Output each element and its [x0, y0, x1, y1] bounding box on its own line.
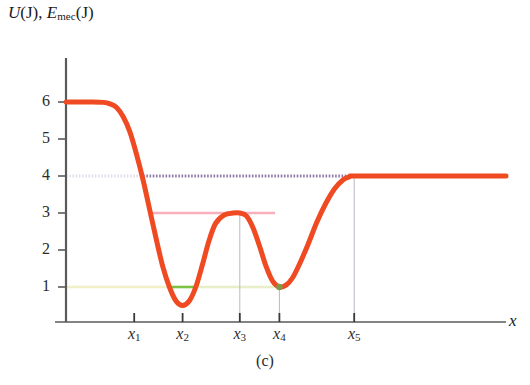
y-tick-label-2: 2: [30, 241, 50, 257]
equilibrium-dot-x4: [276, 284, 282, 290]
axis-lines: [55, 58, 506, 322]
x-tick-label-x3: x3: [223, 326, 257, 343]
y-tick-label-6: 6: [30, 93, 50, 109]
x-tick-label-subscript: 5: [355, 331, 361, 343]
y-tick-label-4: 4: [30, 167, 50, 183]
x-tick-label-subscript: 3: [241, 331, 247, 343]
marker-layer: [276, 284, 282, 290]
x-tick-label-subscript: 1: [135, 331, 141, 343]
x-tick-label-x2: x2: [166, 326, 200, 343]
x-tick-label-base: x: [128, 325, 135, 342]
x-tick-label-base: x: [348, 325, 355, 342]
x-tick-label-subscript: 2: [183, 331, 189, 343]
x-tick-label-base: x: [233, 325, 240, 342]
y-tick-label-3: 3: [30, 204, 50, 220]
panel-caption: (c): [0, 352, 530, 370]
x-axis-ticks: [134, 313, 354, 322]
y-tick-label-1: 1: [30, 278, 50, 294]
x-tick-label-subscript: 4: [280, 331, 286, 343]
x-tick-label-x1: x1: [117, 326, 151, 343]
x-tick-label-x5: x5: [337, 326, 371, 343]
potential-energy-curve-0: [66, 102, 506, 306]
potential-curve-layer: [66, 102, 506, 306]
x-tick-label-x4: x4: [262, 326, 296, 343]
y-tick-label-5: 5: [30, 130, 50, 146]
potential-energy-figure: U(J), Emec(J) x 123456 x1x2x3x4x5 (c): [0, 0, 530, 385]
guide-drop-lines: [240, 176, 354, 322]
y-axis-ticks: [58, 102, 66, 287]
